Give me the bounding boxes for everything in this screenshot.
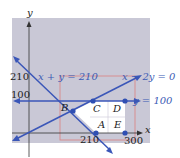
label-D: D — [113, 104, 121, 114]
equation-y-100: y = 100 — [133, 96, 172, 106]
y-axis-label: y — [27, 8, 33, 18]
label-A: A — [98, 120, 105, 130]
label-E: E — [114, 120, 121, 130]
label-B: B — [61, 103, 68, 113]
equation-x-minus-2y-0: x − 2y = 0 — [122, 72, 176, 82]
equation-x-plus-y-210: x + y = 210 — [38, 72, 98, 82]
x-axis-label: x — [145, 125, 151, 135]
point-B — [70, 108, 75, 113]
y-tick-100: 100 — [11, 90, 30, 100]
x-tick-300: 300 — [124, 136, 143, 146]
label-C: C — [93, 104, 101, 114]
point-D — [122, 98, 127, 103]
x-tick-210: 210 — [80, 135, 99, 145]
y-tick-210: 210 — [10, 72, 29, 82]
